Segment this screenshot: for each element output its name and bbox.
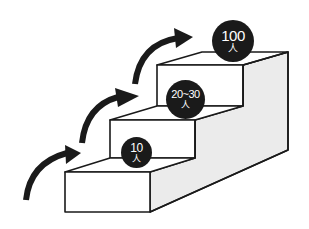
- step-1-badge: 10 人: [121, 137, 152, 168]
- arrowhead-icon: [174, 28, 193, 48]
- step-1-front: [65, 172, 150, 212]
- step-1-count: 10: [130, 142, 142, 154]
- step-2-unit: 人: [181, 101, 190, 110]
- staircase-diagram: 10 人 20~30 人 100 人: [0, 0, 309, 229]
- arrowhead-icon: [65, 145, 81, 164]
- step-2-count: 20~30: [171, 89, 199, 100]
- step-3-badge: 100 人: [212, 20, 254, 62]
- step-3-count: 100: [221, 28, 245, 43]
- curved-arrow-icon: [26, 153, 67, 200]
- step-2-badge: 20~30 人: [166, 80, 205, 119]
- staircase-illustration: [0, 0, 309, 229]
- step-3-unit: 人: [228, 44, 238, 54]
- step-1-unit: 人: [132, 155, 141, 164]
- arrowhead-icon: [115, 88, 139, 107]
